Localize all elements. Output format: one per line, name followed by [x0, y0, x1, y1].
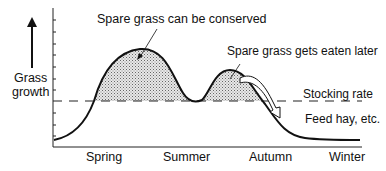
surplus-area-spring	[94, 49, 194, 101]
eaten-later-annotation: Spare grass gets eaten later	[227, 44, 378, 58]
y-axis-label-line2: growth	[12, 85, 50, 99]
feed-hay-label: Feed hay, etc.	[305, 112, 380, 126]
x-label-summer: Summer	[163, 150, 210, 164]
x-label-spring: Spring	[86, 150, 122, 164]
y-axis-label-line1: Grass	[14, 71, 47, 85]
x-label-autumn: Autumn	[249, 150, 292, 164]
x-label-winter: Winter	[329, 150, 365, 164]
conserved-annotation: Spare grass can be conserved	[97, 12, 267, 26]
stocking-rate-label: Stocking rate	[303, 87, 373, 101]
up-arrow-icon	[27, 17, 37, 68]
